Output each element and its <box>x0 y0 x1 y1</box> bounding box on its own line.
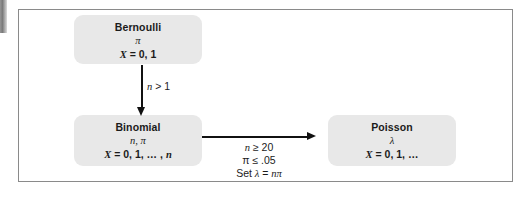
node-poisson: Poisson λ X = 0, 1, … <box>328 115 456 166</box>
arrow-horizontal-label-line3-mid: = <box>259 167 271 179</box>
arrow-horizontal-label-line3-prefix: Set <box>236 167 255 179</box>
arrow-horizontal-label-line3: Set λ = nπ <box>207 167 311 180</box>
node-bernoulli-support-variable: X <box>120 49 127 60</box>
arrow-horizontal-label-line1: n ≥ 20 <box>207 141 311 154</box>
node-binomial-support-tail: n <box>166 149 172 160</box>
node-bernoulli-title: Bernoulli <box>74 20 202 34</box>
node-poisson-support: X = 0, 1, … <box>328 147 456 162</box>
node-binomial-parameter-pi: , π <box>135 135 146 146</box>
arrow-binomial-to-poisson-line <box>202 136 309 138</box>
arrow-binomial-to-poisson-labels: n ≥ 20 π ≤ .05 Set λ = nπ <box>207 141 311 180</box>
node-bernoulli-support-values: = 0, 1 <box>127 48 156 60</box>
arrow-bernoulli-to-binomial-line <box>141 65 143 109</box>
node-poisson-parameter: λ <box>328 134 456 147</box>
arrow-vertical-label-rest: > 1 <box>152 80 170 92</box>
node-binomial-support: X = 0, 1, … , n <box>74 147 202 162</box>
node-binomial: Binomial n, π X = 0, 1, … , n <box>74 115 202 166</box>
node-bernoulli-parameter: π <box>74 34 202 47</box>
arrow-horizontal-label-line3-tail: nπ <box>271 168 282 179</box>
page-edge-artifact <box>0 0 7 33</box>
arrow-horizontal-label-line2: π ≤ .05 <box>207 154 311 167</box>
node-poisson-support-values: = 0, 1, … <box>373 148 419 160</box>
node-poisson-support-variable: X <box>366 149 373 160</box>
arrow-bernoulli-to-binomial-label: n > 1 <box>147 80 170 92</box>
node-poisson-title: Poisson <box>328 120 456 134</box>
node-bernoulli: Bernoulli π X = 0, 1 <box>74 15 202 64</box>
node-binomial-title: Binomial <box>74 120 202 134</box>
arrow-binomial-to-poisson-head-icon <box>307 132 316 140</box>
arrow-bernoulli-to-binomial-head-icon <box>137 107 145 116</box>
node-bernoulli-support: X = 0, 1 <box>74 47 202 62</box>
node-binomial-support-values: = 0, 1, … , <box>111 148 166 160</box>
arrow-horizontal-label-line1-rest: ≥ 20 <box>250 141 273 153</box>
node-binomial-parameter: n, π <box>74 134 202 147</box>
figure-frame: Bernoulli π X = 0, 1 Binomial n, π X = 0… <box>18 9 513 182</box>
